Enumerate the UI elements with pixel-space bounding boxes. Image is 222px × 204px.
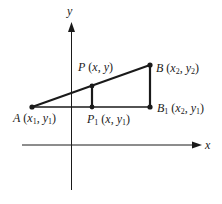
label-B1: B1 (x2, y1): [157, 101, 204, 116]
point-B1: [147, 104, 152, 109]
y-axis-arrow-icon: [68, 22, 75, 32]
label-B: B (x2, y2): [156, 61, 199, 76]
x-axis-label: x: [204, 138, 211, 152]
point-P: [90, 84, 95, 89]
x-axis-arrow-icon: [192, 142, 202, 149]
point-B: [147, 62, 152, 67]
point-P1: [90, 105, 95, 110]
label-P1: P1 (x, y1): [86, 112, 130, 127]
label-A: A (x1, y1): [12, 111, 56, 126]
point-A: [29, 104, 34, 109]
section-formula-diagram: x y A (x1, y1) P1 (x, y1) P (x, y) B (x2…: [0, 0, 222, 204]
y-axis-label: y: [66, 4, 73, 18]
label-P: P (x, y): [77, 60, 113, 74]
